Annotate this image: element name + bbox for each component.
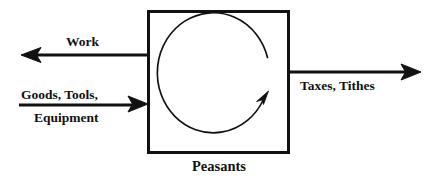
entity-label-peasants: Peasants: [192, 158, 246, 174]
flow-label-goods-tools: Goods, Tools,: [21, 87, 98, 102]
diagram-canvas: Work Goods, Tools, Equipment Taxes, Tith…: [0, 0, 434, 183]
flow-label-work: Work: [66, 34, 99, 49]
flow-diagram: Work Goods, Tools, Equipment Taxes, Tith…: [0, 0, 434, 183]
entity-box-peasants: [149, 12, 289, 153]
flow-label-taxes-tithes: Taxes, Tithes: [300, 78, 375, 93]
flow-label-equipment: Equipment: [34, 110, 99, 125]
circular-arrow-arc: [157, 13, 267, 133]
circular-arrow-head-icon: [257, 91, 269, 105]
